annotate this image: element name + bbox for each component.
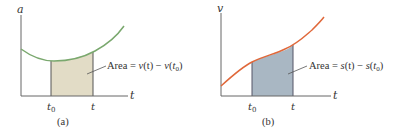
tick-t0-b: t0 (248, 101, 257, 114)
caption-b: (b) (262, 116, 275, 128)
tick-t-a: t (91, 101, 96, 112)
area-label-a: Area = v(t) − v(t0) (107, 60, 183, 73)
y-axis-label-a: a (17, 3, 24, 16)
acceleration-curve (21, 26, 124, 61)
tick-t0-a: t0 (47, 101, 56, 114)
shaded-area-b (252, 45, 293, 96)
caption-a: (a) (57, 116, 69, 128)
x-axis-label-b: t (333, 89, 338, 102)
panel-b: v t t0 t Area = s(t) − s(t0) (b) (217, 2, 384, 128)
x-axis-label-a: t (130, 89, 135, 102)
tick-t-b: t (291, 101, 296, 112)
y-axis-label-b: v (217, 2, 224, 15)
panel-a: a t t0 t Area = v(t) − v(t0) (a) (17, 3, 183, 128)
area-label-b: Area = s(t) − s(t0) (309, 60, 384, 73)
figure: a t t0 t Area = v(t) − v(t0) (a) v t t0 … (0, 0, 408, 137)
